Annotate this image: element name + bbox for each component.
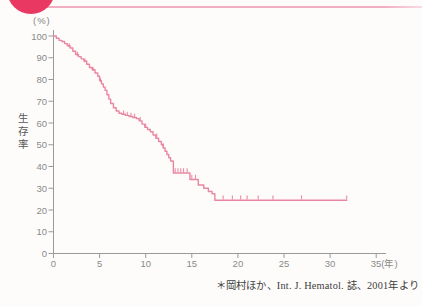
y-tick-label: 70: [36, 96, 47, 107]
y-tick-label: 80: [36, 74, 47, 85]
x-tick-label: 35(年): [371, 258, 398, 269]
x-tick-label: 30: [325, 258, 336, 269]
y-tick-label: 30: [36, 183, 47, 194]
header-rule: [42, 6, 422, 8]
y-tick-label: 10: [36, 226, 47, 237]
y-tick-label: 100: [31, 31, 47, 42]
x-tick-label: 10: [140, 258, 151, 269]
y-tick-label: 40: [36, 161, 47, 172]
y-tick-label: 0: [42, 248, 47, 259]
survival-curve: [54, 36, 347, 200]
y-tick-label: 90: [36, 52, 47, 63]
y-tick-label: 50: [36, 139, 47, 150]
x-tick-label: 15: [187, 258, 198, 269]
y-tick-label: 20: [36, 205, 47, 216]
source-citation: ＊岡村ほか、Int. J. Hematol. 誌、2001年より: [216, 277, 419, 292]
x-tick-label: 0: [51, 258, 56, 269]
x-tick-label: 5: [97, 258, 102, 269]
x-tick-label: 20: [233, 258, 244, 269]
figure-page: (%) 生存率 01020304050607080901000510152025…: [0, 0, 422, 306]
y-tick-label: 60: [36, 118, 47, 129]
survival-curve-chart: 010203040506070809010005101520253035(年): [0, 0, 422, 306]
x-tick-label: 25: [279, 258, 290, 269]
